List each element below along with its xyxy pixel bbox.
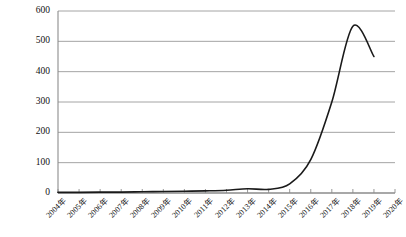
y-axis-tick-label-200: 200 <box>14 128 50 138</box>
y-axis-tick-label-0: 0 <box>14 188 50 198</box>
y-axis-tick-label-500: 500 <box>14 37 50 47</box>
gridlines <box>58 11 395 193</box>
line-chart: 0100200300400500600 2004年2005年2006年2007年… <box>0 0 406 237</box>
y-axis-tick-label-100: 100 <box>14 158 50 168</box>
data-line-series-1 <box>58 25 374 192</box>
y-axis-tick-label-300: 300 <box>14 97 50 107</box>
y-axis-tick-label-400: 400 <box>14 67 50 77</box>
y-axis-tick-label-600: 600 <box>14 6 50 16</box>
